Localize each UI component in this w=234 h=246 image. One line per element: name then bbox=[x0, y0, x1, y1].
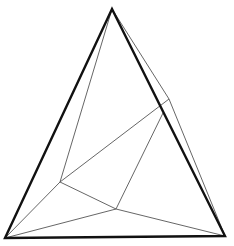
edge-D_right_outer-F_left_inner bbox=[60, 99, 169, 182]
inner-edges bbox=[5, 9, 225, 238]
edge-A_top-F_left_inner bbox=[60, 9, 112, 182]
edge-F_left_inner-G_mid_bottom bbox=[60, 182, 116, 209]
edge-E_right_inner-G_mid_bottom bbox=[116, 113, 163, 209]
triangle-diagram bbox=[0, 0, 234, 246]
edge-G_mid_bottom-B_bottom_left bbox=[5, 209, 116, 238]
edge-F_left_inner-B_bottom_left bbox=[5, 182, 60, 238]
edge-D_right_outer-C_bottom_right bbox=[169, 99, 225, 236]
outer-triangle bbox=[5, 9, 225, 238]
edge-G_mid_bottom-C_bottom_right bbox=[116, 209, 225, 236]
edge-A_top-D_right_outer bbox=[112, 9, 169, 99]
